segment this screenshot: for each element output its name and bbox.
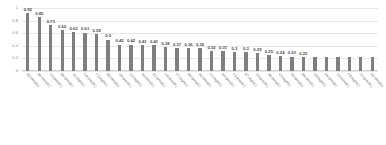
bar-value-label: 0.24 <box>276 51 284 55</box>
bar-slot: 0.24 <box>275 8 286 71</box>
bar-value-label: 0.32 <box>207 46 215 50</box>
x-label-slot: A1 (ng/mL) <box>68 72 79 142</box>
bar[interactable] <box>325 57 328 71</box>
bar[interactable] <box>175 48 178 71</box>
bar-slot: 0.41 <box>148 8 159 71</box>
bar[interactable] <box>244 52 247 71</box>
x-label-slot: C1 (ng/mL) <box>206 72 217 142</box>
x-label-slot: E3 (pmol/L) <box>286 72 297 142</box>
bar-slot: 0.62 <box>68 8 79 71</box>
bar[interactable] <box>129 45 132 71</box>
bar[interactable] <box>279 56 282 71</box>
bar-slot <box>332 8 343 71</box>
x-label-slot: C5 (ng/mL) <box>275 72 286 142</box>
x-label-slot: B4 (nmol/L) <box>298 72 309 142</box>
y-axis-tick-label: 0 <box>16 69 18 73</box>
x-label-slot: D7 (ng/mL) <box>171 72 182 142</box>
bar-value-label: 0.25 <box>265 50 273 54</box>
bar-value-label: 0.23 <box>288 51 296 55</box>
bar-value-label: 0.29 <box>253 48 261 52</box>
bar[interactable] <box>118 45 121 71</box>
y-axis: 10.80.60.40.20 <box>0 8 20 71</box>
bar-value-label: 0.73 <box>47 20 55 24</box>
x-label-slot: D2 (pmol/L) <box>252 72 263 142</box>
bar[interactable] <box>26 13 29 71</box>
x-label-slot: E1 (pmol/L) <box>148 72 159 142</box>
bar[interactable] <box>302 57 305 71</box>
bar[interactable] <box>348 57 351 71</box>
bar[interactable] <box>221 51 224 71</box>
x-axis-labels: B2 (nmol/L)B5 (nmol/L)C6 (pmol/L)B6 (pmo… <box>22 72 378 142</box>
bar[interactable] <box>210 51 213 71</box>
bar[interactable] <box>290 57 293 71</box>
x-label-slot: C8 (nmol/L) <box>79 72 90 142</box>
y-axis-tick-label: 0.8 <box>12 18 18 22</box>
bar[interactable] <box>267 55 270 71</box>
bar[interactable] <box>152 45 155 71</box>
bar-value-label: 0.5 <box>105 34 111 38</box>
bar-slot: 0.42 <box>114 8 125 71</box>
x-label-slot: B2 (nmol/L) <box>22 72 33 142</box>
x-label-slot: D1 (pmol/L) <box>355 72 366 142</box>
bar[interactable] <box>313 57 316 71</box>
bar[interactable] <box>198 48 201 71</box>
x-label-slot: A5 (nmol/L) <box>137 72 148 142</box>
bar-value-label: 0.38 <box>161 42 169 46</box>
bar-value-label: 0.3 <box>232 47 238 51</box>
bar-slot: 0.42 <box>125 8 136 71</box>
bar-value-label: 0.22 <box>299 52 307 56</box>
x-label-slot: C4 (nmol/L) <box>160 72 171 142</box>
x-label-slot: F8 (ng/mL) <box>344 72 355 142</box>
bar-slot: 0.61 <box>79 8 90 71</box>
bar[interactable] <box>256 53 259 71</box>
bar[interactable] <box>141 45 144 71</box>
x-label-slot: C3 (nmol/L) <box>332 72 343 142</box>
bar-slot <box>309 8 320 71</box>
x-label-slot: B9 (pmol/L) <box>183 72 194 142</box>
x-label-slot: D4 (pmol/L) <box>114 72 125 142</box>
x-label-slot: C6 (pmol/L) <box>45 72 56 142</box>
bar[interactable] <box>336 57 339 71</box>
bar-slot <box>355 8 366 71</box>
x-label-slot: E6 (pmol/L) <box>217 72 228 142</box>
bar-slot: 0.36 <box>183 8 194 71</box>
x-label-slot: D9 (ng/mL) <box>309 72 320 142</box>
bar-value-label: 0.65 <box>58 25 66 29</box>
bar[interactable] <box>72 32 75 71</box>
bar[interactable] <box>83 33 86 71</box>
bar-value-label: 0.41 <box>150 40 158 44</box>
x-label-slot: A3 (nmol/L) <box>194 72 205 142</box>
y-axis-tick-label: 0.6 <box>12 31 18 35</box>
bar-slot: 0.92 <box>22 8 33 71</box>
bar-value-label: 0.36 <box>196 43 204 47</box>
y-axis-tick-label: 1 <box>16 6 18 10</box>
bar[interactable] <box>38 17 41 71</box>
x-label-slot: B3 (nmol/L) <box>102 72 113 142</box>
y-axis-tick-label: 0.2 <box>12 56 18 60</box>
bar[interactable] <box>187 48 190 71</box>
bar[interactable] <box>61 30 64 71</box>
bar[interactable] <box>95 34 98 71</box>
bar[interactable] <box>359 57 362 71</box>
bar-value-label: 0.42 <box>116 39 124 43</box>
x-label-slot: B7 (ng/mL) <box>240 72 251 142</box>
bar-value-label: 0.36 <box>184 43 192 47</box>
bar-slot <box>321 8 332 71</box>
bar[interactable] <box>233 52 236 71</box>
bar[interactable] <box>371 57 374 71</box>
x-label-slot: B5 (nmol/L) <box>33 72 44 142</box>
bar-slot: 0.22 <box>298 8 309 71</box>
bar-slot: 0.73 <box>45 8 56 71</box>
bar[interactable] <box>106 40 109 72</box>
bar-slot: 0.3 <box>229 8 240 71</box>
bar[interactable] <box>164 47 167 71</box>
bar[interactable] <box>49 25 52 71</box>
bar-value-label: 0.61 <box>81 27 89 31</box>
bar-value-label: 0.62 <box>70 27 78 31</box>
bar-slot: 0.38 <box>160 8 171 71</box>
x-label-slot: A8 (nmol/L) <box>263 72 274 142</box>
bar-value-label: 0.85 <box>35 12 43 16</box>
bar-slot: 0.36 <box>194 8 205 71</box>
bar-slot: 0.37 <box>171 8 182 71</box>
bar-value-label: 0.42 <box>127 39 135 43</box>
